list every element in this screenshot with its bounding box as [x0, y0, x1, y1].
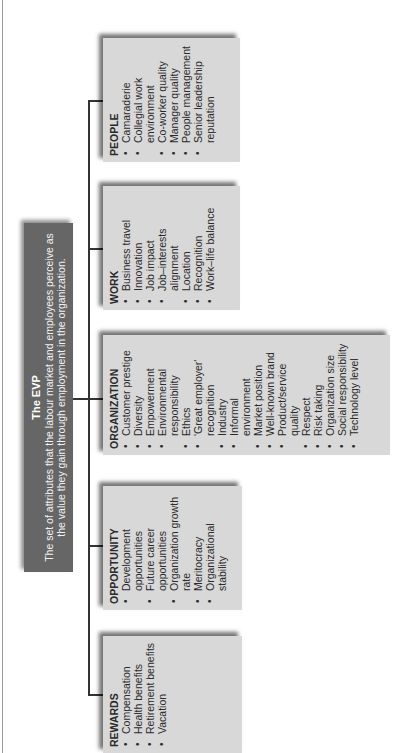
work-title: WORK	[108, 192, 120, 304]
list-item: Organization size	[324, 341, 336, 449]
organization-list: Customer prestige Diversity Empowerment …	[120, 341, 360, 449]
page-edge-line	[2, 0, 3, 753]
list-item: Social responsibility	[336, 341, 348, 449]
list-item: Retirement benefits	[144, 642, 156, 747]
organization-box: ORGANIZATION Customer prestige Diversity…	[103, 335, 390, 455]
list-item: Health benefits	[132, 642, 144, 747]
list-item: Diversity	[132, 341, 144, 449]
rewards-box: REWARDS Compensation Health benefits Ret…	[103, 636, 242, 753]
list-item: Vacation	[156, 642, 168, 747]
list-item: Customer prestige	[120, 341, 132, 449]
list-item: Future career opportunities	[144, 492, 168, 604]
list-item: Well-known brand	[264, 341, 276, 449]
evp-description: The set of attributes that the labour ma…	[43, 223, 67, 572]
list-item: Manager quality	[168, 44, 180, 156]
work-list: Business travel Innovation Job impact Jo…	[120, 192, 216, 304]
list-item: Organization growth rate	[168, 492, 192, 604]
list-item: Co-worker quality	[156, 44, 168, 156]
evp-title: The EVP	[30, 223, 43, 572]
work-connector	[88, 249, 103, 251]
list-item: Industry	[216, 341, 228, 449]
evp-stem-connector	[73, 399, 88, 401]
list-item: Recognition	[192, 192, 204, 304]
list-item: Job impact	[144, 192, 156, 304]
list-item: Organizational stability	[204, 492, 228, 604]
list-item: Product/service quality	[276, 341, 300, 449]
people-connector	[88, 101, 103, 103]
list-item: Market position	[252, 341, 264, 449]
opportunity-list: Development opportunities Future career …	[120, 492, 228, 604]
list-item: Ethics	[180, 341, 192, 449]
rewards-connector	[88, 695, 103, 697]
list-item: Collegial work environment	[132, 44, 156, 156]
people-list: Camaraderie Collegial work environment C…	[120, 44, 216, 156]
list-item: Risk taking	[312, 341, 324, 449]
list-item: Business travel	[120, 192, 132, 304]
organization-title: ORGANIZATION	[108, 341, 120, 449]
list-item: Camaraderie	[120, 44, 132, 156]
evp-header-box: The EVP The set of attributes that the l…	[24, 223, 73, 572]
list-item: Senior leadership reputation	[192, 44, 216, 156]
list-item: Development opportunities	[120, 492, 144, 604]
list-item: Job–interests alignment	[156, 192, 180, 304]
list-item: Location	[180, 192, 192, 304]
list-item: Informal environment	[228, 341, 252, 449]
list-item: Innovation	[132, 192, 144, 304]
list-item: Technology level	[348, 341, 360, 449]
rewards-title: REWARDS	[108, 642, 120, 747]
opportunity-connector	[88, 546, 103, 548]
work-box: WORK Business travel Innovation Job impa…	[103, 186, 240, 310]
list-item: Meritocracy	[192, 492, 204, 604]
opportunity-box: OPPORTUNITY Development opportunities Fu…	[103, 486, 242, 610]
list-item: Respect	[300, 341, 312, 449]
people-title: PEOPLE	[108, 44, 120, 156]
list-item: Environmental responsibility	[156, 341, 180, 449]
evp-diagram: The EVP The set of attributes that the l…	[0, 0, 408, 753]
list-item: People management	[180, 44, 192, 156]
list-item: Empowerment	[144, 341, 156, 449]
list-item: 'Great employer' recognition	[192, 341, 216, 449]
organization-connector	[88, 399, 103, 401]
list-item: Work–life balance	[204, 192, 216, 304]
opportunity-title: OPPORTUNITY	[108, 492, 120, 604]
rewards-list: Compensation Health benefits Retirement …	[120, 642, 168, 747]
list-item: Compensation	[120, 642, 132, 747]
people-box: PEOPLE Camaraderie Collegial work enviro…	[103, 38, 240, 162]
